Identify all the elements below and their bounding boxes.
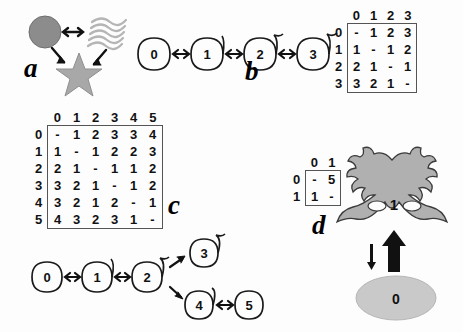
panel-b-matrix-header-row: 0123 xyxy=(330,8,417,24)
panel-c-matrix-body: 0123450-1233411-1223221-1123321-1243212-… xyxy=(30,110,163,229)
panel-b-matrix-row: 0-123 xyxy=(330,24,417,42)
panel-c-matrix-corner xyxy=(30,110,48,126)
panel-c-col-header-3: 3 xyxy=(105,110,124,126)
waves-icon xyxy=(88,19,126,50)
panel-b-cell-0-3: 3 xyxy=(399,24,417,42)
panel-b-cell-1-2: 1 xyxy=(382,41,399,58)
panel-d-cell-1-0: 1 xyxy=(306,188,324,206)
panel-c-matrix-table: 0123450-1233411-1223221-1123321-1243212-… xyxy=(30,110,163,229)
panel-c-cell-5-1: 3 xyxy=(67,211,86,229)
panel-b-row-header-1: 1 xyxy=(330,41,348,58)
panel-c-graph: 0 1 2 3 4 5 xyxy=(22,237,252,332)
panel-c-cell-1-2: 1 xyxy=(86,143,105,160)
panel-c-matrix-row: 0-12334 xyxy=(30,126,163,144)
panel-c-cell-3-1: 2 xyxy=(67,177,86,194)
coral-eye-left xyxy=(368,201,386,211)
panel-c-matrix-row: 221-112 xyxy=(30,160,163,177)
panel-c-matrix-row: 543231- xyxy=(30,211,163,229)
node-c-3-label: 3 xyxy=(200,246,207,261)
panel-b-matrix-row: 3321- xyxy=(330,75,417,93)
panel-c-cell-0-3: 3 xyxy=(105,126,124,144)
panel-c-cell-3-2: 1 xyxy=(86,177,105,194)
panel-c-cell-4-0: 3 xyxy=(48,194,68,211)
panel-c-cell-4-3: 2 xyxy=(105,194,124,211)
panel-d-row-header-1: 1 xyxy=(288,188,306,206)
panel-b-matrix-corner xyxy=(330,8,348,24)
panel-c-cell-2-4: 1 xyxy=(124,160,143,177)
down-arrow-icon xyxy=(367,244,376,270)
panel-c-cell-5-3: 3 xyxy=(105,211,124,229)
panel-d-graphic: 1 0 xyxy=(330,148,463,323)
panel-c-matrix-header-row: 012345 xyxy=(30,110,163,126)
panel-c-cell-0-0: - xyxy=(48,126,68,144)
coral-shape-label: 1 xyxy=(390,196,398,213)
panel-c-cell-5-2: 2 xyxy=(86,211,105,229)
panel-b-cell-3-3: - xyxy=(399,75,417,93)
panel-c-cell-0-1: 1 xyxy=(67,126,86,144)
panel-c-cell-3-3: - xyxy=(105,177,124,194)
panel-b-col-header-2: 2 xyxy=(382,8,399,24)
panel-c-cell-2-2: - xyxy=(86,160,105,177)
panel-b-matrix-row: 11-12 xyxy=(330,41,417,58)
panel-b-cell-1-1: - xyxy=(365,41,382,58)
panel-c-cell-3-4: 1 xyxy=(124,177,143,194)
panel-c-col-header-1: 1 xyxy=(67,110,86,126)
panel-c-row-header-5: 5 xyxy=(30,211,48,229)
panel-c-col-header-2: 2 xyxy=(86,110,105,126)
panel-b-cell-3-2: 1 xyxy=(382,75,399,93)
panel-c-cell-1-3: 2 xyxy=(105,143,124,160)
panel-b-row-header-3: 3 xyxy=(330,75,348,93)
node-c-5-label: 5 xyxy=(245,298,252,313)
node-b-1-label: 1 xyxy=(203,47,210,62)
panel-c-row-header-4: 4 xyxy=(30,194,48,211)
ellipse-shape-label: 0 xyxy=(392,291,400,307)
up-arrow-icon xyxy=(382,230,406,272)
panel-b-cell-3-1: 2 xyxy=(365,75,382,93)
panel-c-cell-0-5: 4 xyxy=(143,126,163,144)
panel-c-row-header-2: 2 xyxy=(30,160,48,177)
panel-b-letter: b xyxy=(245,58,259,85)
panel-c-cell-1-1: - xyxy=(67,143,86,160)
panel-c-letter: c xyxy=(168,192,180,219)
panel-b-cell-2-3: 1 xyxy=(399,58,417,75)
panel-c-cell-4-4: - xyxy=(124,194,143,211)
panel-d-cell-0-0: - xyxy=(306,171,324,189)
figure-canvas: a 0 1 2 3 b 01230-12311-122 xyxy=(0,0,463,332)
panel-c-cell-5-4: 1 xyxy=(124,211,143,229)
panel-c-cell-5-0: 4 xyxy=(48,211,68,229)
panel-b-cell-2-1: 1 xyxy=(365,58,382,75)
panel-c-cell-1-4: 2 xyxy=(124,143,143,160)
panel-c-cell-2-3: 1 xyxy=(105,160,124,177)
panel-c-cell-1-0: 1 xyxy=(48,143,68,160)
panel-b-row-header-2: 2 xyxy=(330,58,348,75)
panel-c-col-header-5: 5 xyxy=(143,110,163,126)
panel-b-cell-2-0: 2 xyxy=(348,58,366,75)
panel-c-row-header-3: 3 xyxy=(30,177,48,194)
link-waves-star xyxy=(93,50,106,65)
panel-c-matrix-row: 3321-12 xyxy=(30,177,163,194)
node-c-2-label: 2 xyxy=(143,270,150,285)
panel-b-col-header-0: 0 xyxy=(348,8,366,24)
panel-c-cell-3-0: 3 xyxy=(48,177,68,194)
panel-d-col-header-0: 0 xyxy=(306,155,324,171)
circle-icon xyxy=(29,16,61,48)
panel-d-letter: d xyxy=(312,212,326,239)
panel-b-col-header-1: 1 xyxy=(365,8,382,24)
panel-b-cell-2-2: - xyxy=(382,58,399,75)
node-b-3-label: 3 xyxy=(309,47,316,62)
node-b-0-label: 0 xyxy=(150,47,157,62)
panel-c-cell-4-2: 1 xyxy=(86,194,105,211)
panel-c-cell-0-4: 3 xyxy=(124,126,143,144)
panel-c-cell-4-5: 1 xyxy=(143,194,163,211)
node-c-1-label: 1 xyxy=(93,270,100,285)
panel-b-matrix-table: 01230-12311-12221-13321- xyxy=(330,8,417,93)
panel-b-cell-0-2: 2 xyxy=(382,24,399,42)
panel-b-col-header-3: 3 xyxy=(399,8,417,24)
panel-c-cell-2-0: 2 xyxy=(48,160,68,177)
panel-c-cell-5-5: - xyxy=(143,211,163,229)
panel-c-cell-0-2: 2 xyxy=(86,126,105,144)
coral-eye-right xyxy=(403,201,421,211)
panel-b-matrix-body: 01230-12311-12221-13321- xyxy=(330,8,417,93)
panel-b-matrix-row: 221-1 xyxy=(330,58,417,75)
link-circle-star xyxy=(52,48,65,63)
